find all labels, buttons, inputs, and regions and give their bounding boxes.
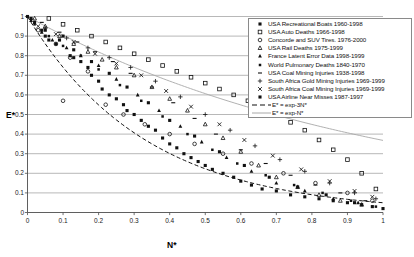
legend-item: France Latent Error Data 1998-1999	[249, 52, 411, 60]
legend-item: Concorde and SUV Tires. 1976-2000	[249, 36, 411, 44]
legend-item: South Africa Gold Mining Injuries 1969-1…	[249, 77, 411, 85]
legend-item-label: South Africa Gold Mining Injuries 1969-1…	[268, 77, 385, 85]
x-tick-label: 0.4	[164, 217, 176, 224]
legend-item-label: USA Recreational Boats 1960-1998	[268, 20, 363, 28]
legend-marker-dash-icon	[252, 69, 268, 77]
legend-curve-solid-icon	[252, 109, 272, 117]
legend-item-label: USA Airline Near Misses 1987-1997	[268, 93, 363, 101]
x-tick-label: 1	[377, 217, 389, 224]
x-axis-title: N*	[167, 240, 176, 250]
y-tick-label: 0.4	[2, 130, 24, 137]
legend-marker-cross-icon	[252, 85, 268, 93]
legend-item-label: South Africa Coal Mining Injuries 1969-1…	[268, 85, 384, 93]
legend-item-label: USA Coal Mining Injuries 1938-1998	[268, 69, 364, 77]
x-tick-label: 0	[22, 217, 34, 224]
y-tick-label: 0.6	[2, 91, 24, 98]
legend-marker-filled-triangle-icon	[252, 52, 268, 60]
y-tick-label: 0.1	[2, 189, 24, 196]
x-tick-label: 0.6	[235, 217, 247, 224]
legend-item: USA Coal Mining Injuries 1938-1998	[249, 69, 411, 77]
legend-marker-open-square-icon	[252, 28, 268, 36]
legend-item-label: World Pulmonary Deaths 1840-1970	[268, 61, 365, 69]
legend-item: USA Rail Deaths 1975-1999	[249, 44, 411, 52]
chart-legend: USA Recreational Boats 1960-1998USA Auto…	[248, 18, 412, 118]
legend-marker-open-triangle-icon	[252, 44, 268, 52]
y-tick-label: 0.3	[2, 150, 24, 157]
y-tick-label: 0.5	[2, 111, 24, 118]
legend-marker-filled-square-small-icon	[252, 61, 268, 69]
legend-item-label: USA Rail Deaths 1975-1999	[268, 44, 343, 52]
y-tick-label: 0.8	[2, 52, 24, 59]
legend-item: USA Recreational Boats 1960-1998	[249, 20, 411, 28]
y-tick-label: 0.7	[2, 71, 24, 78]
legend-marker-open-circle-icon	[252, 36, 268, 44]
chart-figure: E* N* 00.10.20.30.40.50.60.70.80.9100.10…	[0, 0, 414, 257]
legend-curve-label: E* = exp-3N*	[272, 101, 307, 109]
legend-curve-item: E* = exp-3N*	[249, 101, 411, 109]
y-tick-label: 0.9	[2, 32, 24, 39]
legend-item: World Pulmonary Deaths 1840-1970	[249, 60, 411, 68]
x-tick-label: 0.3	[128, 217, 140, 224]
legend-item: USA Airline Near Misses 1987-1997	[249, 93, 411, 101]
legend-marker-plus-icon	[252, 77, 268, 85]
legend-marker-filled-square-icon	[252, 20, 268, 28]
x-tick-label: 0.2	[93, 217, 105, 224]
x-tick-label: 0.5	[199, 217, 211, 224]
x-tick-label: 0.7	[270, 217, 282, 224]
x-tick-label: 0.1	[57, 217, 69, 224]
legend-curve-dashed-icon	[252, 101, 272, 109]
legend-curve-label: E* = exp-N*	[272, 109, 303, 117]
x-tick-label: 0.9	[341, 217, 353, 224]
y-tick-label: 0.2	[2, 169, 24, 176]
y-tick-label: 1	[2, 13, 24, 20]
legend-curve-item: E* = exp-N*	[249, 109, 411, 117]
legend-item-label: France Latent Error Data 1998-1999	[268, 52, 364, 60]
legend-marker-filled-square-icon	[252, 93, 268, 101]
legend-item-label: USA Auto Deaths 1966-1998	[268, 28, 345, 36]
legend-item: South Africa Coal Mining Injuries 1969-1…	[249, 85, 411, 93]
y-tick-label: 0	[2, 209, 24, 216]
x-tick-label: 0.8	[306, 217, 318, 224]
legend-item: USA Auto Deaths 1966-1998	[249, 28, 411, 36]
legend-item-label: Concorde and SUV Tires. 1976-2000	[268, 36, 366, 44]
